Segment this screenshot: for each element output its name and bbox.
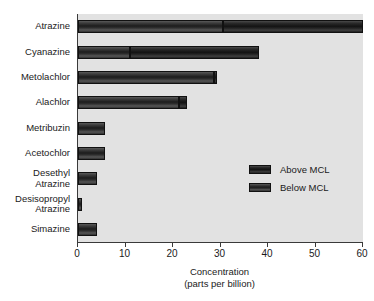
x-tick-mark <box>267 243 268 247</box>
category-label-line: Cyanazine <box>0 47 70 58</box>
category-label: Cyanazine <box>0 47 70 58</box>
bar-row <box>78 147 363 160</box>
bar-segment-below-mcl <box>78 46 130 59</box>
x-tick-label: 0 <box>74 248 80 259</box>
bar-row <box>78 46 363 59</box>
bar-chart: AtrazineCyanazineMetolachlorAlachlorMetr… <box>0 0 374 301</box>
bar-segment-below-mcl <box>78 96 179 109</box>
category-label: DesisopropylAtrazine <box>0 194 70 215</box>
category-label: Metribuzin <box>0 123 70 134</box>
x-axis-title-line2: (parts per billion) <box>77 278 362 290</box>
legend-entry: Above MCL <box>249 160 359 178</box>
bar-segment-below-mcl <box>78 122 105 135</box>
x-tick-label: 50 <box>309 248 320 259</box>
category-label-line: Alachlor <box>0 97 70 108</box>
plot-area <box>77 14 363 243</box>
category-label-line: Atrazine <box>0 21 70 32</box>
x-tick-mark <box>362 243 363 247</box>
x-axis-title: Concentration (parts per billion) <box>77 266 362 290</box>
x-tick-mark <box>125 243 126 247</box>
bar-segment-above-mcl <box>214 71 217 84</box>
bar-segment-above-mcl <box>223 20 363 33</box>
bar-segment-above-mcl <box>130 46 259 59</box>
x-tick-label: 60 <box>356 248 367 259</box>
bar-row <box>78 122 363 135</box>
category-label-line: Atrazine <box>0 204 70 215</box>
x-tick-label: 20 <box>166 248 177 259</box>
x-tick-label: 40 <box>261 248 272 259</box>
category-label-line: Acetochlor <box>0 148 70 159</box>
bar-segment-below-mcl <box>78 223 97 236</box>
bar-row <box>78 198 363 211</box>
legend-label: Above MCL <box>280 164 330 175</box>
x-axis: 0102030405060 <box>77 243 362 265</box>
legend-label: Below MCL <box>280 182 329 193</box>
category-label-line: Metolachlor <box>0 72 70 83</box>
x-tick-mark <box>77 243 78 247</box>
x-tick-label: 10 <box>119 248 130 259</box>
category-label: Acetochlor <box>0 148 70 159</box>
x-axis-title-line1: Concentration <box>77 266 362 278</box>
category-label-line: Atrazine <box>0 179 70 190</box>
category-label: Simazine <box>0 224 70 235</box>
bar-row <box>78 223 363 236</box>
legend: Above MCLBelow MCL <box>249 160 359 196</box>
category-label: Metolachlor <box>0 72 70 83</box>
category-axis: AtrazineCyanazineMetolachlorAlachlorMetr… <box>0 14 73 242</box>
category-label: DesethylAtrazine <box>0 168 70 189</box>
x-tick-label: 30 <box>214 248 225 259</box>
bar-row <box>78 71 363 84</box>
bar-row <box>78 96 363 109</box>
legend-entry: Below MCL <box>249 178 359 196</box>
bar-segment-below-mcl <box>78 147 105 160</box>
x-tick-mark <box>315 243 316 247</box>
bar-segment-below-mcl <box>78 20 223 33</box>
x-tick-mark <box>172 243 173 247</box>
legend-swatch <box>249 183 271 192</box>
bar-segment-below-mcl <box>78 198 82 211</box>
x-tick-mark <box>220 243 221 247</box>
category-label: Atrazine <box>0 21 70 32</box>
bar-segment-below-mcl <box>78 172 97 185</box>
bar-segment-above-mcl <box>179 96 188 109</box>
category-label-line: Simazine <box>0 224 70 235</box>
category-label-line: Metribuzin <box>0 123 70 134</box>
legend-swatch <box>249 165 271 174</box>
bar-row <box>78 20 363 33</box>
category-label: Alachlor <box>0 97 70 108</box>
bar-segment-below-mcl <box>78 71 214 84</box>
